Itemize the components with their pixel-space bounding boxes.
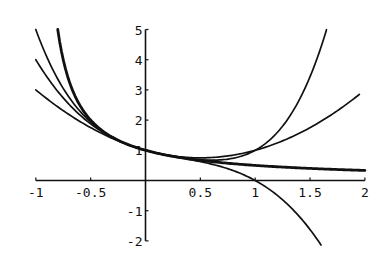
x-tick-label: 2 xyxy=(361,185,369,200)
curve-1-1-x xyxy=(58,30,365,171)
x-tick-label: -1 xyxy=(28,185,44,200)
y-tick-label: 5 xyxy=(135,23,143,38)
x-tick-label: 0.5 xyxy=(189,185,212,200)
y-tick-label: 3 xyxy=(135,83,143,98)
x-tick-label: 1 xyxy=(251,185,259,200)
y-tick-label: -1 xyxy=(127,204,143,219)
plot-curves xyxy=(36,30,365,246)
chart: -1-0.50.511.52-2-112345 xyxy=(0,0,385,257)
x-tick-label: -0.5 xyxy=(75,185,106,200)
x-tick-label: 1.5 xyxy=(298,185,321,200)
y-tick-label: 2 xyxy=(135,113,143,128)
curve-1-x-x-2-x-3 xyxy=(36,60,321,245)
y-tick-label: -2 xyxy=(127,234,143,249)
y-tick-label: 1 xyxy=(135,143,143,158)
curve-1-x-x-2 xyxy=(36,90,360,158)
y-tick-label: 4 xyxy=(135,53,143,68)
